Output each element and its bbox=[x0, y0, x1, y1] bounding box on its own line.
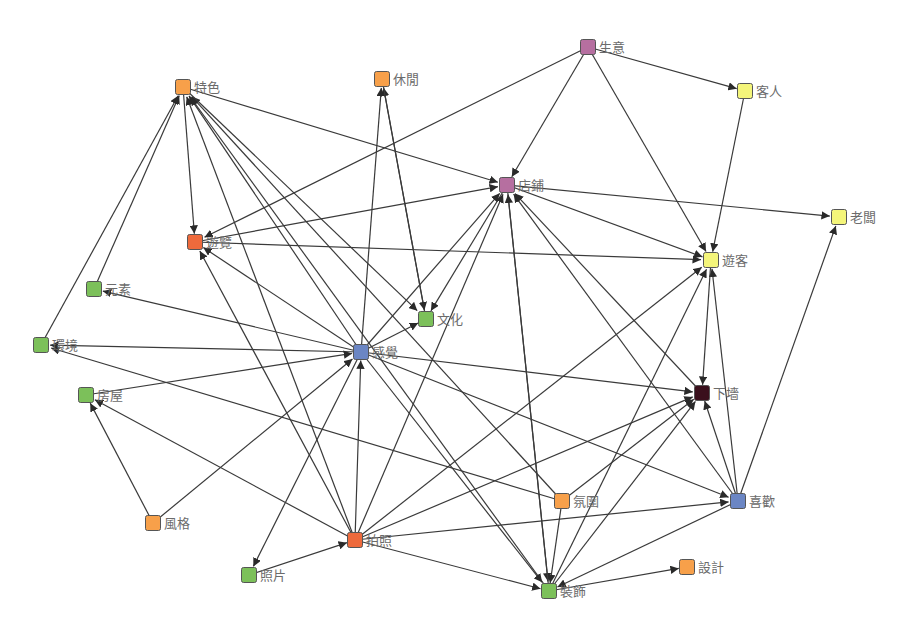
node-label: 老闆 bbox=[850, 210, 876, 225]
node-square-icon bbox=[375, 72, 390, 87]
edge-fangwu-to-ganjue bbox=[86, 353, 352, 395]
edge-youke-to-xiakan bbox=[703, 260, 711, 385]
node-yuansu[interactable]: 元素 bbox=[87, 282, 131, 298]
edge-fengge-to-ganjue bbox=[153, 359, 352, 523]
edge-yuansu-to-tese bbox=[94, 96, 179, 289]
edge-fenwei-to-tese bbox=[192, 97, 562, 501]
edge-fenwei-to-huanjing bbox=[51, 348, 562, 501]
edge-ganjue-to-xiuxian bbox=[361, 88, 381, 352]
node-label: 喜歡 bbox=[749, 494, 775, 509]
node-shengyi[interactable]: 生意 bbox=[581, 40, 625, 56]
edge-tese-to-wenhua bbox=[183, 87, 417, 311]
edge-huanjing-to-tese bbox=[41, 96, 178, 345]
node-label: 拍照 bbox=[366, 533, 392, 548]
node-square-icon bbox=[176, 80, 191, 95]
edge-paizhao-to-xiakan bbox=[355, 397, 693, 540]
node-huanjing[interactable]: 環境 bbox=[34, 338, 78, 354]
node-square-icon bbox=[79, 388, 94, 403]
edge-tese-to-dianpu bbox=[183, 87, 498, 182]
node-square-icon bbox=[555, 494, 570, 509]
edge-fengge-to-fangwu bbox=[90, 403, 153, 523]
node-label: 感覺 bbox=[372, 345, 398, 360]
node-square-icon bbox=[695, 386, 710, 401]
node-label: 店鋪 bbox=[518, 178, 544, 193]
node-label: 元素 bbox=[105, 282, 131, 297]
node-youke[interactable]: 遊客 bbox=[704, 253, 748, 269]
node-square-icon bbox=[87, 282, 102, 297]
node-square-icon bbox=[34, 338, 49, 353]
edge-dianpu-to-wenhua bbox=[431, 185, 507, 311]
node-square-icon bbox=[704, 253, 719, 268]
node-xiakan[interactable]: 下墻 bbox=[695, 386, 739, 402]
node-fengge[interactable]: 風格 bbox=[146, 516, 190, 532]
node-fangwu[interactable]: 房屋 bbox=[79, 388, 123, 404]
node-label: 生意 bbox=[599, 40, 625, 55]
node-zhuangshi[interactable]: 裝飾 bbox=[542, 584, 586, 600]
node-label: 客人 bbox=[756, 84, 782, 99]
node-label: 氛圍 bbox=[573, 494, 599, 509]
node-youlan[interactable]: 遊覽 bbox=[188, 235, 232, 251]
edge-zhuangshi-to-xiakan bbox=[549, 401, 695, 591]
edge-paizhao-to-youke bbox=[355, 267, 702, 540]
edge-xihuan-to-youke bbox=[712, 269, 738, 501]
node-square-icon bbox=[242, 568, 257, 583]
node-keren[interactable]: 客人 bbox=[738, 84, 782, 100]
node-xiuxian[interactable]: 休閒 bbox=[375, 72, 419, 88]
edge-xiakan-to-dianpu bbox=[515, 194, 702, 393]
edge-xiuxian-to-wenhua bbox=[382, 79, 424, 310]
edge-paizhao-to-tese bbox=[187, 97, 355, 540]
edge-xihuan-to-laoban bbox=[738, 226, 836, 501]
edge-dianpu-to-laoban bbox=[507, 185, 830, 216]
node-square-icon bbox=[731, 494, 746, 509]
edge-keren-to-youke bbox=[713, 91, 745, 252]
node-label: 休閒 bbox=[393, 72, 419, 87]
node-square-icon bbox=[680, 560, 695, 575]
nodes-layer: 特色休閒生意客人店鋪老闆遊覽遊客元素文化環境感覺房屋下墻氛圍喜歡風格拍照照片設計… bbox=[34, 40, 876, 600]
node-square-icon bbox=[354, 345, 369, 360]
node-square-icon bbox=[581, 40, 596, 55]
edge-ganjue-to-tese bbox=[189, 96, 361, 352]
node-label: 風格 bbox=[164, 516, 190, 531]
edge-youlan-to-dianpu bbox=[195, 187, 498, 242]
edge-ganjue-to-yuansu bbox=[103, 291, 361, 352]
edge-paizhao-to-youlan bbox=[200, 251, 355, 540]
network-graph: 特色休閒生意客人店鋪老闆遊覽遊客元素文化環境感覺房屋下墻氛圍喜歡風格拍照照片設計… bbox=[0, 0, 911, 622]
node-square-icon bbox=[542, 584, 557, 599]
node-laoban[interactable]: 老闆 bbox=[832, 210, 876, 226]
node-fenwei[interactable]: 氛圍 bbox=[555, 494, 599, 510]
edge-zhuangshi-to-youke bbox=[549, 269, 707, 591]
node-label: 設計 bbox=[698, 560, 724, 575]
node-ganjue[interactable]: 感覺 bbox=[354, 345, 398, 361]
node-label: 房屋 bbox=[97, 388, 123, 403]
edge-ganjue-to-huanjing bbox=[50, 345, 361, 352]
node-label: 照片 bbox=[260, 568, 286, 583]
edge-paizhao-to-ganjue bbox=[355, 360, 361, 540]
edge-ganjue-to-dianpu bbox=[361, 193, 500, 352]
node-square-icon bbox=[188, 235, 203, 250]
node-tese[interactable]: 特色 bbox=[176, 80, 220, 96]
node-square-icon bbox=[348, 533, 363, 548]
node-label: 文化 bbox=[437, 312, 463, 327]
node-label: 環境 bbox=[52, 338, 78, 353]
edge-dianpu-to-youke bbox=[507, 185, 702, 257]
edge-youlan-to-youke bbox=[195, 242, 701, 260]
edge-fenwei-to-zhuangshi bbox=[550, 501, 562, 583]
node-square-icon bbox=[500, 178, 515, 193]
node-paizhao[interactable]: 拍照 bbox=[348, 533, 392, 549]
node-square-icon bbox=[419, 312, 434, 327]
node-square-icon bbox=[832, 210, 847, 225]
node-wenhua[interactable]: 文化 bbox=[419, 312, 463, 328]
node-label: 遊覽 bbox=[206, 235, 232, 250]
node-square-icon bbox=[738, 84, 753, 99]
edge-paizhao-to-fangwu bbox=[95, 400, 355, 540]
edge-xihuan-to-dianpu bbox=[514, 194, 738, 501]
node-square-icon bbox=[146, 516, 161, 531]
node-dianpu[interactable]: 店鋪 bbox=[500, 178, 544, 194]
node-zhaopian[interactable]: 照片 bbox=[242, 568, 286, 584]
edge-fenwei-to-xiakan bbox=[562, 399, 694, 501]
node-label: 特色 bbox=[194, 80, 220, 95]
edge-paizhao-to-dianpu bbox=[355, 194, 503, 540]
node-label: 下墻 bbox=[713, 386, 739, 401]
node-sheji[interactable]: 設計 bbox=[680, 560, 724, 576]
node-xihuan[interactable]: 喜歡 bbox=[731, 494, 775, 510]
